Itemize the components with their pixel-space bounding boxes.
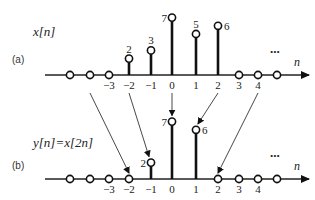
tick-label: 0	[169, 183, 175, 195]
sample-marker	[147, 47, 154, 54]
panel-b-tag: (b)	[12, 160, 24, 171]
sample-marker	[254, 175, 261, 182]
sample-marker	[86, 71, 93, 78]
sample-marker	[168, 14, 175, 21]
sample-marker	[235, 175, 242, 182]
panel-a-title: x[n]	[32, 24, 55, 39]
tick-label: 4	[255, 183, 261, 195]
tick-label: −2	[123, 79, 135, 91]
tick-label: 0	[169, 79, 175, 91]
sample-value-label: 7	[162, 116, 168, 128]
sample-value-label: 6	[202, 124, 208, 136]
sample-marker	[254, 71, 261, 78]
sample-marker	[192, 30, 199, 37]
axis-label-n: n	[294, 55, 300, 69]
mapping-arrow	[129, 93, 149, 157]
tick-label: −3	[103, 183, 115, 195]
sample-marker	[147, 159, 154, 166]
sample-marker	[105, 71, 112, 78]
panel-a-stem-plot: n...23756−3−2−101234	[45, 12, 309, 91]
sample-value-label: 2	[126, 43, 132, 55]
sample-marker	[235, 71, 242, 78]
sample-marker	[66, 175, 73, 182]
sample-marker	[214, 22, 221, 29]
sample-marker	[168, 118, 175, 125]
ellipsis: ...	[270, 145, 280, 160]
downsampling-diagram: x[n] (a) y[n]=x[2n] (b) n...23756−3−2−10…	[0, 0, 315, 200]
sample-value-label: 6	[224, 20, 230, 32]
tick-label: 1	[193, 183, 199, 195]
axis-label-n: n	[294, 159, 300, 173]
tick-label: −1	[145, 183, 157, 195]
sample-value-label: 5	[193, 18, 199, 30]
sample-marker	[273, 175, 280, 182]
tick-label: 2	[215, 79, 221, 91]
sample-marker	[66, 71, 73, 78]
sample-value-label: 2	[141, 157, 147, 169]
tick-label: −3	[103, 79, 115, 91]
panel-b-stem-plot: n...276−3−2−101234	[45, 116, 309, 195]
sample-value-label: 3	[148, 34, 154, 46]
sample-marker	[125, 175, 132, 182]
tick-label: −2	[123, 183, 135, 195]
sample-marker	[192, 126, 199, 133]
tick-label: 1	[193, 79, 199, 91]
tick-label: 3	[236, 183, 242, 195]
tick-label: 2	[215, 183, 221, 195]
tick-label: 3	[236, 79, 242, 91]
sample-marker	[214, 175, 221, 182]
mapping-arrows	[90, 93, 258, 173]
mapping-arrow	[218, 93, 258, 173]
panel-b-title: y[n]=x[2n]	[31, 135, 93, 150]
mapping-arrow	[198, 93, 218, 124]
sample-marker	[86, 175, 93, 182]
tick-label: −1	[145, 79, 157, 91]
panel-a-tag: (a)	[12, 54, 24, 65]
sample-marker	[125, 55, 132, 62]
sample-marker	[105, 175, 112, 182]
tick-label: 4	[255, 79, 261, 91]
sample-value-label: 7	[162, 12, 168, 24]
sample-marker	[273, 71, 280, 78]
ellipsis: ...	[270, 41, 280, 56]
mapping-arrow	[90, 93, 129, 173]
